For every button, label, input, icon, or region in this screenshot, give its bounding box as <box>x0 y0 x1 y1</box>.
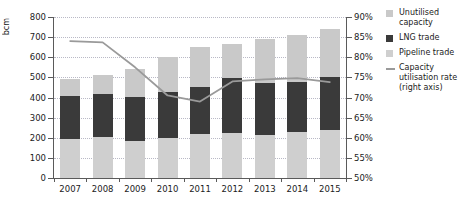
plot-area <box>54 17 346 178</box>
chart-legend: Unutilised capacityLNG tradePipeline tra… <box>386 8 473 98</box>
x-axis-tick <box>54 178 55 182</box>
y-axis-right-tick-label: 50% <box>354 173 384 183</box>
legend-swatch-icon <box>386 10 393 17</box>
y-axis-tick-label: 500 <box>0 72 46 82</box>
y-axis-tick-label: 700 <box>0 32 46 42</box>
x-axis-tick <box>216 178 217 182</box>
y-axis-tick <box>48 77 53 78</box>
y-axis-tick <box>48 57 53 58</box>
x-axis-tick <box>86 178 87 182</box>
capacity-utilisation-chart: bcm 8007006005004003002001000 90%85%80%7… <box>0 0 473 204</box>
x-axis-tick-label: 2015 <box>310 184 350 194</box>
y-axis-tick-label: 800 <box>0 12 46 22</box>
legend-item-pipeline-trade[interactable]: Pipeline trade <box>386 48 473 58</box>
legend-item-unutilised-capacity[interactable]: Unutilised capacity <box>386 8 473 28</box>
y-axis-tick <box>48 17 53 18</box>
y-axis-right-tick-label: 55% <box>354 153 384 163</box>
x-axis-tick <box>281 178 282 182</box>
legend-item-label: Capacity utilisation rate (right axis) <box>399 63 473 93</box>
y-axis-right-tick-label: 70% <box>354 93 384 103</box>
y-axis-right-tick <box>347 17 352 18</box>
legend-item-label: Unutilised capacity <box>399 8 473 28</box>
y-axis-tick <box>48 37 53 38</box>
x-axis-tick <box>151 178 152 182</box>
y-axis-tick-label: 200 <box>0 133 46 143</box>
y-axis-right-tick-label: 75% <box>354 72 384 82</box>
legend-swatch-icon <box>386 50 393 57</box>
y-axis-tick <box>48 98 53 99</box>
x-axis-tick <box>249 178 250 182</box>
y-axis-right-tick <box>347 158 352 159</box>
y-axis-right-tick-label: 90% <box>354 12 384 22</box>
legend-swatch-icon <box>386 35 393 42</box>
y-axis-tick-label: 0 <box>0 173 46 183</box>
x-axis-tick <box>184 178 185 182</box>
y-axis-right-tick <box>347 118 352 119</box>
x-axis-line <box>53 178 347 179</box>
y-axis-tick <box>48 118 53 119</box>
legend-item-label: Pipeline trade <box>399 48 473 58</box>
x-axis-tick <box>346 178 347 182</box>
y-axis-right-tick <box>347 37 352 38</box>
y-axis-tick <box>48 138 53 139</box>
y-axis-right-tick-label: 85% <box>354 32 384 42</box>
legend-item-label: LNG trade <box>399 33 473 43</box>
y-axis-right-tick-label: 65% <box>354 113 384 123</box>
y-axis-tick-label: 100 <box>0 153 46 163</box>
y-axis-tick-label: 600 <box>0 52 46 62</box>
y-axis-right-tick <box>347 138 352 139</box>
y-axis-tick-label: 400 <box>0 93 46 103</box>
y-axis-right-tick <box>347 77 352 78</box>
x-axis-tick <box>119 178 120 182</box>
y-axis-tick <box>48 158 53 159</box>
y-axis-right-tick <box>347 178 352 179</box>
legend-item-lng-trade[interactable]: LNG trade <box>386 33 473 43</box>
y-axis-tick <box>48 178 53 179</box>
legend-line-marker-icon <box>386 68 395 70</box>
y-axis-right-tick-label: 60% <box>354 133 384 143</box>
capacity-utilisation-line <box>54 17 346 178</box>
y-axis-right-tick <box>347 57 352 58</box>
y-axis-right-tick <box>347 98 352 99</box>
y-axis-tick-label: 300 <box>0 113 46 123</box>
x-axis-tick <box>314 178 315 182</box>
y-axis-right-tick-label: 80% <box>354 52 384 62</box>
legend-item-capacity-utilisation-rate[interactable]: Capacity utilisation rate (right axis) <box>386 63 473 93</box>
